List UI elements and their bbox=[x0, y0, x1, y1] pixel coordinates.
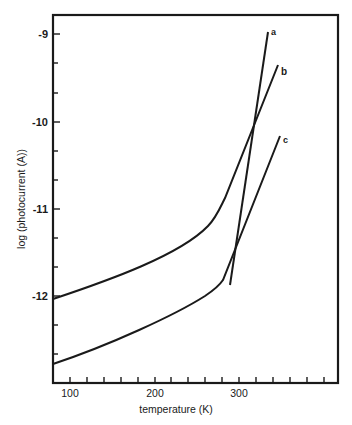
y-tick-label: -12 bbox=[32, 290, 48, 302]
x-tick-label: 100 bbox=[61, 387, 79, 399]
x-axis-title: temperature (K) bbox=[139, 403, 213, 415]
y-tick-label: -9 bbox=[38, 28, 48, 40]
x-tick-label: 200 bbox=[146, 387, 164, 399]
series-c-curve bbox=[53, 136, 280, 364]
series-b-label: b bbox=[281, 66, 287, 77]
y-axis-title: log (photocurrent (A)) bbox=[15, 149, 27, 249]
series-c-label: c bbox=[283, 135, 288, 145]
series-a-line bbox=[230, 32, 268, 285]
photocurrent-chart: -9 -10 -11 -12 100 200 300 temperature (… bbox=[0, 0, 352, 425]
series-a-label: a bbox=[271, 27, 277, 37]
y-tick-label: -11 bbox=[33, 203, 48, 215]
x-tick-label: 300 bbox=[230, 387, 248, 399]
y-tick-label: -10 bbox=[32, 116, 48, 128]
plot-frame bbox=[53, 15, 338, 383]
series-b-curve bbox=[53, 65, 278, 299]
